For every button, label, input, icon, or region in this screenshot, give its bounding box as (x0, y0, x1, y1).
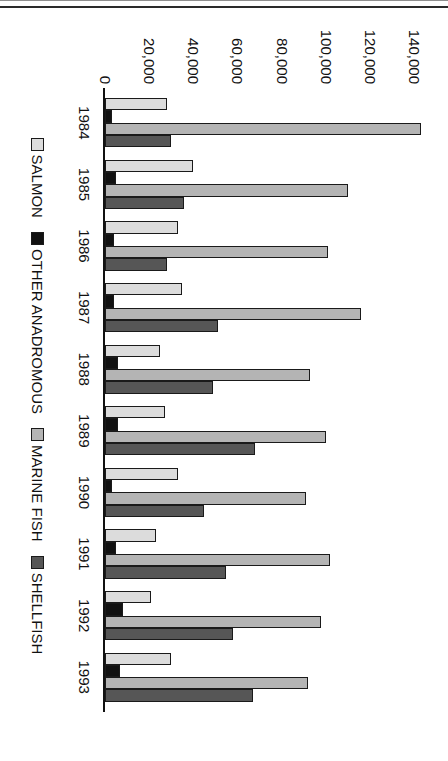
bar-group-1984 (105, 98, 425, 147)
value-axis-labels: 020,00040,00060,00080,000100,000120,0001… (105, 36, 425, 88)
legend-swatch-icon-salmon (32, 137, 45, 150)
bar-1993-anadromous (105, 664, 120, 676)
bar-1988-salmon (105, 344, 160, 356)
chart-legend: SALMONOTHER ANADROMOUSMARINE FISHSHELLFI… (25, 76, 51, 716)
bar-1987-salmon (105, 282, 182, 294)
value-tick-80000: 80,000 (273, 38, 290, 84)
category-label-1988: 1988 (76, 352, 93, 385)
legend-item-anadromous: OTHER ANADROMOUS (30, 231, 47, 413)
legend-swatch-icon-marine (32, 427, 45, 440)
bar-1985-salmon (105, 159, 193, 171)
category-label-1991: 1991 (76, 537, 93, 570)
legend-label: OTHER ANADROMOUS (30, 248, 47, 413)
bar-1990-marine (105, 492, 306, 504)
bar-group-1987 (105, 282, 425, 331)
bar-1987-marine (105, 307, 361, 319)
bar-group-1993 (105, 652, 425, 701)
bar-1984-marine (105, 122, 421, 134)
legend-item-salmon: SALMON (30, 137, 47, 217)
bar-1984-shellfish (105, 135, 171, 147)
bar-1991-marine (105, 553, 330, 565)
legend-label: MARINE FISH (30, 444, 47, 541)
legend-label: SALMON (30, 154, 47, 217)
bar-1987-shellfish (105, 319, 218, 331)
category-label-1985: 1985 (76, 167, 93, 200)
bar-1989-shellfish (105, 443, 255, 455)
category-label-1987: 1987 (76, 290, 93, 323)
bar-group-1991 (105, 529, 425, 578)
page-edge-artifact-thin (0, 0, 448, 1)
bar-1993-salmon (105, 652, 171, 664)
bar-1986-anadromous (105, 233, 114, 245)
axis-baseline (103, 88, 105, 712)
value-tick-120000: 120,000 (361, 29, 378, 83)
bar-1985-shellfish (105, 196, 184, 208)
bar-1984-anadromous (105, 110, 112, 122)
value-tick-60000: 60,000 (229, 38, 246, 84)
bar-1989-marine (105, 430, 326, 442)
category-label-1989: 1989 (76, 414, 93, 447)
bar-group-1990 (105, 467, 425, 516)
bar-1991-salmon (105, 529, 156, 541)
bar-1992-salmon (105, 590, 151, 602)
bar-1992-shellfish (105, 627, 233, 639)
bar-1988-anadromous (105, 356, 118, 368)
value-tick-40000: 40,000 (185, 38, 202, 84)
bar-1992-marine (105, 615, 321, 627)
bar-1991-shellfish (105, 566, 226, 578)
bar-group-1985 (105, 159, 425, 208)
value-tick-100000: 100,000 (317, 29, 334, 83)
bar-1990-salmon (105, 467, 178, 479)
page-edge-artifact (0, 6, 448, 8)
bar-1985-marine (105, 184, 348, 196)
bar-1993-marine (105, 677, 308, 689)
legend-item-shellfish: SHELLFISH (30, 555, 47, 654)
category-label-1990: 1990 (76, 475, 93, 508)
bar-1990-anadromous (105, 480, 112, 492)
bar-1990-shellfish (105, 504, 204, 516)
bar-1988-shellfish (105, 381, 213, 393)
bar-1986-marine (105, 245, 328, 257)
bar-chart: 020,00040,00060,00080,000100,000120,0001… (9, 36, 439, 726)
bar-group-1986 (105, 221, 425, 270)
bar-group-1992 (105, 590, 425, 639)
legend-swatch-icon-anadromous (32, 231, 45, 244)
value-tick-140000: 140,000 (405, 29, 422, 83)
category-label-1986: 1986 (76, 229, 93, 262)
category-axis-labels: 1984198519861987198819891990199119921993 (67, 92, 97, 708)
bar-1988-marine (105, 369, 310, 381)
value-tick-0: 0 (97, 75, 114, 83)
bar-group-1988 (105, 344, 425, 393)
bar-1984-salmon (105, 98, 167, 110)
bar-1992-anadromous (105, 603, 123, 615)
legend-swatch-icon-shellfish (32, 555, 45, 568)
bar-group-1989 (105, 406, 425, 455)
bar-1989-anadromous (105, 418, 118, 430)
bar-1987-anadromous (105, 295, 114, 307)
bar-1991-anadromous (105, 541, 116, 553)
bar-1986-salmon (105, 221, 178, 233)
category-label-1992: 1992 (76, 598, 93, 631)
value-tick-20000: 20,000 (141, 38, 158, 84)
category-label-1993: 1993 (76, 660, 93, 693)
bar-1993-shellfish (105, 689, 253, 701)
legend-item-marine: MARINE FISH (30, 427, 47, 541)
category-label-1984: 1984 (76, 106, 93, 139)
bar-1985-anadromous (105, 172, 116, 184)
legend-label: SHELLFISH (30, 572, 47, 654)
bar-1989-salmon (105, 406, 165, 418)
plot-area (105, 92, 425, 708)
bar-1986-shellfish (105, 258, 167, 270)
